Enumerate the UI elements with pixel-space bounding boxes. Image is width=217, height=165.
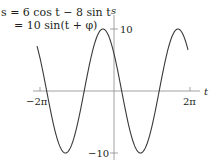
tick-label-neg10: −10 [88,148,109,159]
equation-line-2: = 10 sin(t + φ) [14,19,97,32]
s-axis-label: s [111,5,116,16]
equation-line-1: s = 6 cos t − 8 sin t [1,6,111,19]
tick-label-pos2pi: 2π [183,96,196,107]
sinusoid-chart: s = 6 cos t − 8 sin t = 10 sin(t + φ) s … [0,0,217,165]
tick-label-pos10: 10 [120,24,133,35]
tick-label-neg2pi: −2π [26,96,48,107]
t-axis-label: t [204,86,209,97]
